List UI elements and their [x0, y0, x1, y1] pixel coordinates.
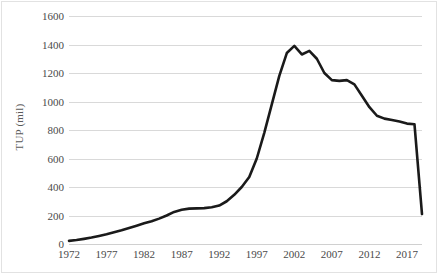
y-tick-label-1000: 1000 — [42, 96, 64, 108]
x-tick-label-1977: 1977 — [96, 248, 118, 260]
series-tup-line — [69, 46, 422, 241]
x-tick-label-1997: 1997 — [246, 248, 268, 260]
y-axis-title-label: TUP (mil) — [13, 104, 25, 151]
x-tick-label-1972: 1972 — [58, 248, 80, 260]
x-tick-label-1987: 1987 — [171, 248, 193, 260]
y-tick-label-600: 600 — [48, 153, 65, 165]
x-tick-label-1982: 1982 — [133, 248, 155, 260]
series-line-chart — [69, 16, 422, 244]
gridline-0 — [69, 244, 422, 245]
x-tick-label-2007: 2007 — [321, 248, 343, 260]
y-tick-label-800: 800 — [48, 124, 65, 136]
y-axis-tick-labels: 02004006008001000120014001600 — [30, 2, 64, 274]
y-tick-label-200: 200 — [48, 210, 65, 222]
x-tick-label-2012: 2012 — [358, 248, 380, 260]
x-tick-label-2002: 2002 — [283, 248, 305, 260]
chart-container: TUP (mil) 02004006008001000120014001600 … — [1, 1, 437, 273]
y-tick-label-1600: 1600 — [42, 10, 64, 22]
y-tick-label-1200: 1200 — [42, 67, 64, 79]
y-tick-label-1400: 1400 — [42, 39, 64, 51]
x-tick-label-2017: 2017 — [396, 248, 418, 260]
y-axis-title: TUP (mil) — [7, 2, 31, 252]
y-tick-label-400: 400 — [48, 181, 65, 193]
plot-area — [69, 16, 422, 244]
x-tick-label-1992: 1992 — [208, 248, 230, 260]
x-axis-tick-labels: 1972197719821987199219972002200720122017 — [69, 248, 422, 268]
